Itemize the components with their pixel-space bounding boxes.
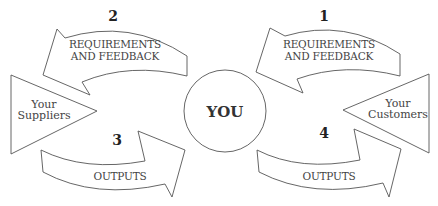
value-chain-diagram: 2 REQUIREMENTS AND FEEDBACK Your Supplie…	[0, 0, 438, 206]
step-number-1: 1	[319, 8, 329, 24]
arrow-2-label-line1: REQUIREMENTS	[69, 38, 161, 50]
curved-right-arrow-shape	[257, 129, 401, 197]
arrow-1-requirements-feedback: 1 REQUIREMENTS AND FEEDBACK	[256, 8, 400, 93]
arrow-3-outputs: 3 OUTPUTS	[41, 131, 185, 197]
arrow-2-label-line2: AND FEEDBACK	[70, 50, 160, 62]
arrow-4-label: OUTPUTS	[303, 170, 356, 182]
you-label: YOU	[206, 103, 244, 121]
suppliers-label-line2: Suppliers	[17, 109, 71, 122]
step-number-3: 3	[112, 132, 122, 148]
arrow-1-label-line2: AND FEEDBACK	[284, 50, 374, 62]
arrow-4-outputs: 4 OUTPUTS	[257, 125, 401, 197]
arrow-2-requirements-feedback: 2 REQUIREMENTS AND FEEDBACK	[43, 8, 187, 95]
arrow-1-label-line1: REQUIREMENTS	[283, 38, 375, 50]
step-number-4: 4	[319, 125, 329, 141]
you-node: YOU	[184, 70, 266, 152]
customers-label-line2: Customers	[368, 108, 428, 121]
step-number-2: 2	[108, 8, 118, 24]
arrow-3-label: OUTPUTS	[94, 170, 147, 182]
